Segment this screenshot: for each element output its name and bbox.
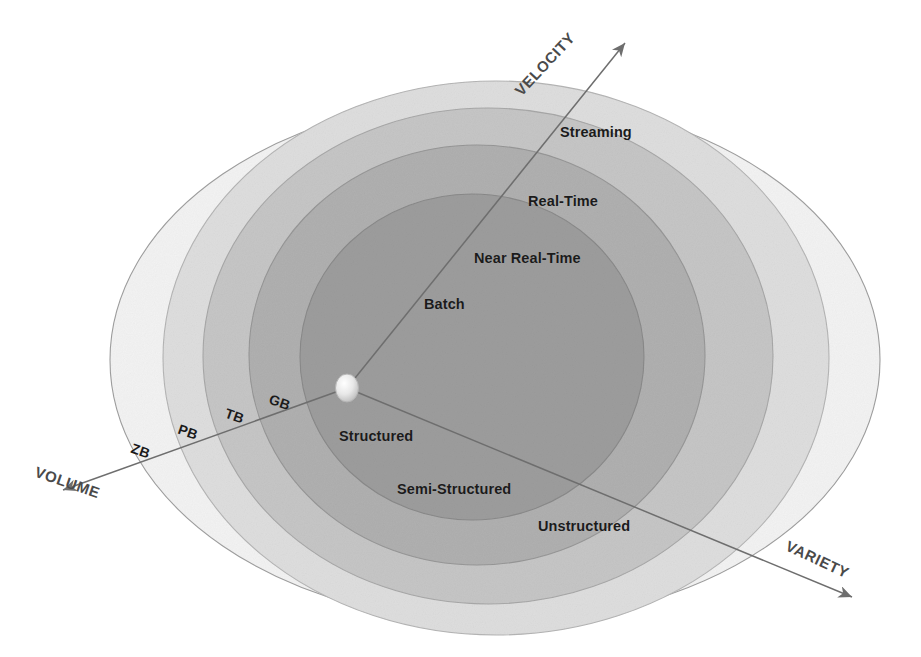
diagram-canvas: VELOCITYVOLUMEVARIETYStreamingReal-TimeN… [0,0,921,657]
variety-label-2: Unstructured [538,519,630,534]
variety-label-1: Semi-Structured [397,482,511,497]
origin-bubble-icon [336,374,359,402]
variety-label-0: Structured [339,429,413,444]
velocity-label-1: Real-Time [528,194,598,209]
velocity-label-0: Streaming [560,125,632,140]
velocity-label-2: Near Real-Time [474,251,581,266]
ring-innermost [300,194,644,520]
velocity-label-3: Batch [424,297,465,312]
ring-group [110,81,880,635]
diagram-svg [0,0,921,657]
